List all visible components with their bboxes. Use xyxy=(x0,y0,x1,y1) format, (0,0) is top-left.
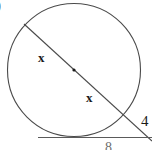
label-tangent-length-4: 4 xyxy=(141,114,149,129)
circle-center-point xyxy=(72,68,75,71)
label-x-upper-segment: x xyxy=(38,51,45,64)
label-x-lower-segment: x xyxy=(86,91,93,104)
circle-secant-tangent-figure xyxy=(0,0,152,151)
geometry-diagram-screenshot: ) x x 4 8 xyxy=(0,0,152,151)
problem-number-paren: ) xyxy=(0,0,1,13)
secant-line xyxy=(24,24,152,141)
label-bottom-partial: 8 xyxy=(105,141,112,150)
